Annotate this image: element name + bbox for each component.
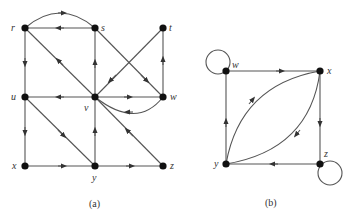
node-x [21,162,28,169]
arrow-icon [141,75,147,81]
node-y [222,160,229,167]
node-label-y: y [91,172,97,183]
arrow-icon [110,75,116,81]
node-label-z: z [323,148,328,159]
node-label-z: z [169,160,174,171]
arrow-icon [58,130,64,136]
node-w [222,67,229,74]
node-label-x: x [326,65,332,76]
graph-b: w x y z (b) [206,50,342,209]
node-label-u: u [11,91,16,102]
node-z [159,162,166,169]
edge-w-v-curved [95,97,163,114]
arrow-icon [296,130,300,135]
node-label-y: y [213,158,219,169]
node-r [21,24,28,31]
node-u [21,93,28,100]
node-label-v: v [84,102,89,113]
edge-x-y-curved [226,71,320,164]
node-w [159,93,166,100]
graph-figure: r s t u v w x y z (a) [0,0,352,224]
edge-r-s-curved [25,13,95,28]
edge-y-x-curved [226,71,320,164]
node-t [159,24,166,31]
node-x [316,67,323,74]
node-label-t: t [169,22,172,33]
node-y [91,162,98,169]
graph-a: r s t u v w x y z (a) [11,13,177,210]
node-label-w: w [232,59,239,70]
arrow-icon [127,130,133,136]
caption-b: (b) [265,197,277,209]
arrow-icon [249,99,253,104]
node-label-r: r [11,22,15,33]
node-z [316,160,323,167]
node-label-w: w [170,91,177,102]
node-v [91,93,98,100]
node-label-x: x [11,160,17,171]
node-label-s: s [101,22,105,33]
caption-a: (a) [89,198,100,210]
node-s [91,24,98,31]
arrow-icon [58,60,63,65]
